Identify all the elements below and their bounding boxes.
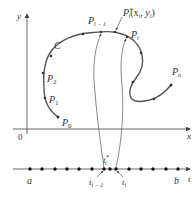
t-point-a <box>28 167 31 170</box>
curve-point <box>153 98 156 101</box>
t-point <box>53 167 56 170</box>
label-pn: Pn <box>171 66 181 78</box>
point-p-i-minus-1 <box>100 31 103 34</box>
t-i-pointer <box>117 171 123 177</box>
t-point-i-minus-1 <box>102 167 105 170</box>
x-axis-label: x <box>186 131 191 141</box>
parametric-curve-diagram: y x 0 C P0 P1 P2 Pi − 1 Pi Pn P*i(xi, yi… <box>0 0 196 198</box>
t-point-i-star <box>108 167 111 170</box>
y-axis-label: y <box>16 11 21 21</box>
label-b: b <box>174 175 179 186</box>
t-point <box>164 167 167 170</box>
t-point <box>90 167 93 170</box>
label-t-i-minus-1: ti − 1 <box>89 177 103 188</box>
curve-point <box>132 81 135 84</box>
origin-label: 0 <box>18 132 23 142</box>
label-t-i-star: t*i <box>103 153 110 166</box>
point-p1 <box>44 97 47 100</box>
point-p-i <box>126 36 129 39</box>
label-p-i-minus-1: Pi − 1 <box>87 15 106 27</box>
t-i-minus-1-pointer <box>97 171 103 177</box>
map-line-t-i <box>116 39 126 168</box>
t-axis-label: t <box>188 174 191 184</box>
point-p2 <box>42 72 45 75</box>
t-point <box>127 167 130 170</box>
map-line-t-i-minus-1 <box>94 34 104 168</box>
t-point <box>65 167 68 170</box>
t-point <box>40 167 43 170</box>
p-i-star-pointer <box>116 17 122 30</box>
point-p-i-star <box>114 31 117 34</box>
t-point <box>77 167 80 170</box>
t-point <box>139 167 142 170</box>
label-t-i: ti <box>122 177 127 188</box>
label-p1: P1 <box>48 94 59 107</box>
label-p-i: Pi <box>130 29 139 41</box>
point-p0 <box>57 116 60 119</box>
curve-c <box>44 32 171 117</box>
curve-points <box>42 31 173 119</box>
label-p-i-star: P*i(xi, yi) <box>122 6 155 19</box>
t-point-b <box>176 167 179 170</box>
point-pn <box>170 84 173 87</box>
curve-label: C <box>54 40 61 51</box>
curve-point <box>82 33 85 36</box>
t-point <box>151 167 154 170</box>
label-a: a <box>27 175 32 186</box>
curve-point <box>140 52 143 55</box>
label-p0: P0 <box>61 117 72 130</box>
t-point-i <box>114 167 117 170</box>
curve-point <box>50 55 53 58</box>
label-p2: P2 <box>46 73 57 86</box>
